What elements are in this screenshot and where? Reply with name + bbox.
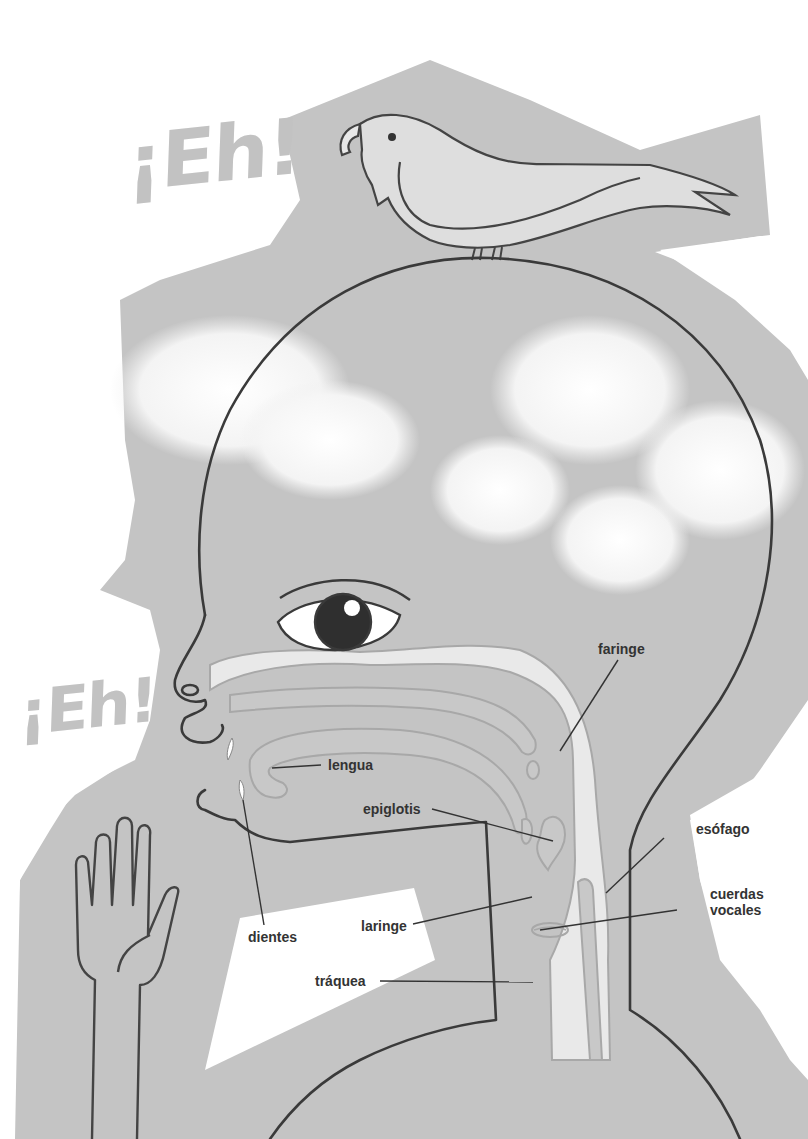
label-cuerdas-line1: cuerdas (710, 886, 764, 902)
anatomy-illustration: ¡Eh! ¡Eh! faringe lengua epiglotis esófa… (0, 0, 808, 1139)
exclamation-left: ¡Eh! (18, 663, 157, 750)
illustration-canvas (0, 0, 808, 1139)
label-esofago: esófago (696, 821, 750, 837)
label-traquea: tráquea (315, 973, 366, 989)
label-dientes: dientes (248, 929, 297, 945)
label-cuerdas-line2: vocales (710, 902, 764, 918)
label-lengua: lengua (328, 757, 373, 773)
label-cuerdas-vocales: cuerdas vocales (710, 886, 764, 918)
label-laringe: laringe (361, 918, 407, 934)
label-faringe: faringe (598, 641, 645, 657)
label-epiglotis: epiglotis (363, 801, 421, 817)
exclamation-top: ¡Eh! (126, 101, 303, 208)
